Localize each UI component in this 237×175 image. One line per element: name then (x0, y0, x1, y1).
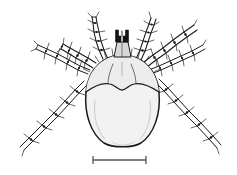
palps (116, 30, 129, 42)
scale-bar (93, 156, 146, 164)
leg-L1 (88, 12, 110, 59)
capitulum (114, 30, 131, 57)
leg-L4 (20, 81, 88, 156)
palp-left (116, 30, 122, 42)
leg-L3 (31, 41, 90, 76)
tick-dorsal-illustration (0, 0, 237, 175)
figure-root (0, 0, 237, 175)
leg-R2 (144, 20, 197, 67)
leg-R4 (155, 79, 221, 154)
basis-capituli (114, 42, 131, 57)
palp-right (123, 30, 129, 42)
